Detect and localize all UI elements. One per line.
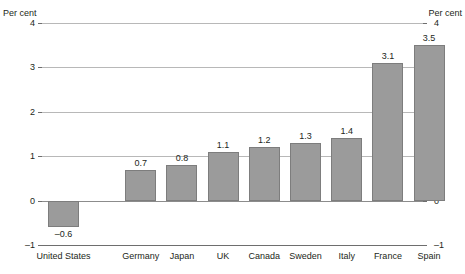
bar-value-label: 3.5: [406, 33, 453, 43]
x-axis-label: United States: [30, 251, 97, 262]
y-tick-label-left-0: 0: [30, 197, 35, 206]
bar-value-label: –0.6: [40, 229, 87, 239]
y-tick-mark-left-neg1: [38, 245, 42, 246]
bar: [414, 45, 445, 200]
gridline-neg1: [42, 245, 423, 246]
bar-value-label: 1.3: [282, 131, 329, 141]
bar: [331, 138, 362, 200]
bar-value-label: 0.8: [158, 153, 205, 163]
bar-chart: Per cent Per cent –1–10011223344 –0.60.7…: [0, 0, 465, 274]
bar: [208, 152, 239, 201]
y-tick-label-left-neg1: –1: [25, 241, 35, 250]
y-tick-label-right-neg1: –1: [434, 241, 444, 250]
plot-area: –1–10011223344 –0.60.70.81.11.21.31.43.1…: [42, 23, 423, 245]
y-tick-label-left-2: 2: [30, 108, 35, 117]
bar-value-label: 3.1: [364, 51, 411, 61]
bar: [166, 165, 197, 201]
bar-value-label: 0.7: [117, 158, 164, 168]
bar-series: –0.60.70.81.11.21.31.43.13.5: [42, 23, 423, 245]
y-tick-mark-right-0: [423, 201, 427, 202]
bar: [372, 63, 403, 201]
x-axis-label: Spain: [396, 251, 463, 262]
y-tick-label-left-3: 3: [30, 63, 35, 72]
bar: [290, 143, 321, 201]
bar-value-label: 1.2: [241, 135, 288, 145]
y-tick-mark-right-4: [423, 23, 427, 24]
y-tick-label-left-1: 1: [30, 152, 35, 161]
y-tick-label-left-4: 4: [30, 19, 35, 28]
bar: [125, 170, 156, 201]
y-tick-mark-right-neg1: [423, 245, 427, 246]
bar-value-label: 1.4: [323, 126, 370, 136]
bar: [48, 201, 79, 228]
bar-value-label: 1.1: [200, 140, 247, 150]
y-tick-label-right-4: 4: [434, 19, 439, 28]
bar: [249, 147, 280, 200]
